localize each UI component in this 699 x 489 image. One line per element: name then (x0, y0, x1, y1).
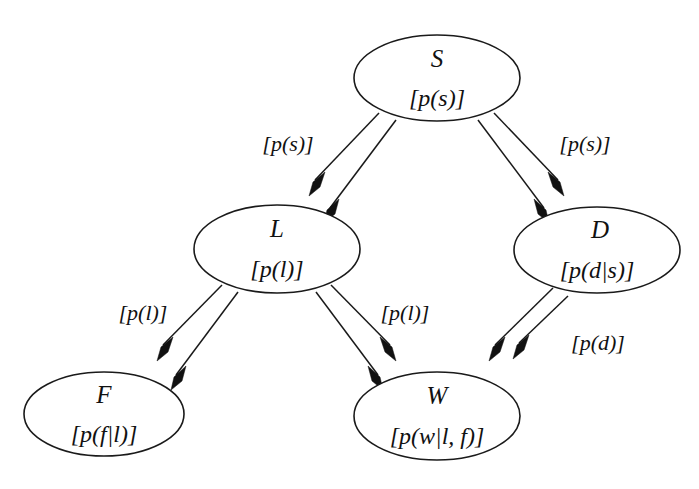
node-l-name: L (269, 215, 284, 242)
node-s[interactable]: S [p(s)] (354, 35, 520, 121)
edge-d-to-w-line-a (495, 288, 553, 345)
node-f[interactable]: F [p(f|l)] (24, 372, 184, 456)
bayesian-network-diagram: S [p(s)] L [p(l)] D [p(d|s)] F [p(f|l)] … (0, 0, 699, 489)
edge-s-to-d (478, 113, 564, 223)
edge-s-to-l-arrowhead-a (309, 172, 325, 196)
edge-s-to-l-line-a (315, 113, 379, 180)
edge-s-to-l-line-b (330, 120, 396, 208)
node-d[interactable]: D [p(d|s)] (514, 207, 680, 293)
edge-l-to-f-arrowhead-a (157, 337, 173, 361)
diagram-canvas: S [p(s)] L [p(l)] D [p(d|s)] F [p(f|l)] … (0, 0, 699, 489)
edge-label-l-to-f: [p(l)] (119, 300, 168, 325)
edge-s-to-d-line-a (494, 113, 558, 180)
edge-d-to-w (489, 288, 568, 361)
edge-s-to-d-arrowhead-a (548, 172, 564, 196)
edge-d-to-w-line-b (519, 296, 568, 343)
edge-l-to-f-line-a (163, 285, 222, 345)
edge-d-to-w-arrowhead-a (489, 337, 505, 361)
node-f-prob: [p(f|l)] (71, 421, 138, 447)
node-w-name: W (427, 382, 450, 409)
edge-s-to-d-line-b (478, 120, 544, 208)
edge-l-to-f (157, 285, 238, 390)
node-s-name: S (431, 45, 444, 72)
node-f-name: F (95, 381, 112, 408)
edge-d-to-w-arrowhead-b (513, 335, 529, 359)
edge-label-l-to-w: [p(l)] (381, 300, 430, 325)
node-w-prob: [p(w|l, f)] (390, 423, 485, 449)
edge-s-to-l (309, 113, 396, 223)
node-w[interactable]: W [p(w|l, f)] (354, 372, 520, 460)
node-d-name: D (590, 216, 609, 243)
edge-label-s-to-l: [p(s)] (262, 131, 313, 156)
node-l[interactable]: L [p(l)] (194, 205, 360, 293)
edge-l-to-w-line-b (316, 292, 378, 375)
edge-l-to-w-arrowhead-a (380, 337, 396, 361)
edge-label-d-to-w: [p(d)] (571, 330, 625, 355)
edge-l-to-f-arrowhead-b (171, 366, 186, 390)
edge-label-s-to-d: [p(s)] (559, 131, 610, 156)
node-d-prob: [p(d|s)] (560, 257, 635, 283)
edge-l-to-f-line-b (176, 292, 238, 375)
node-s-prob: [p(s)] (409, 85, 465, 111)
node-l-prob: [p(l)] (250, 256, 303, 282)
